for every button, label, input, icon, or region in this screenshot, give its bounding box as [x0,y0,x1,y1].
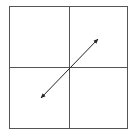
quadrant-diagram [0,0,132,134]
